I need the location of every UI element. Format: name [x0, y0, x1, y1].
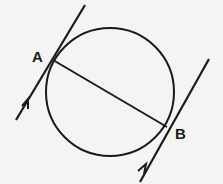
tangent-line-b: [140, 59, 209, 182]
label-b: B: [175, 125, 186, 142]
label-a: A: [32, 48, 43, 65]
tangent-line-a: [16, 5, 85, 120]
diagram: A B: [0, 0, 223, 184]
diagram-svg: A B: [0, 0, 223, 184]
circle: [46, 28, 174, 156]
chord-ab: [53, 60, 167, 127]
arrow-icon-b: [138, 164, 146, 174]
